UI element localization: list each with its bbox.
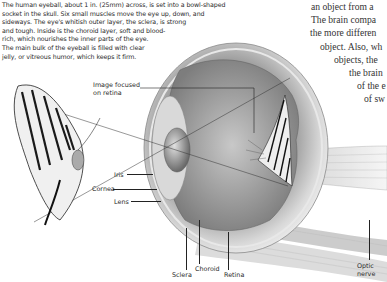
leader-lens xyxy=(131,201,161,202)
intro-line: socket in the skull. Six small muscles m… xyxy=(2,10,227,19)
intro-line: jelly, or vitreous humor, which keeps it… xyxy=(2,53,227,62)
leader-iris xyxy=(127,174,153,175)
leader-retina xyxy=(228,232,229,270)
label-sclera: Sclera xyxy=(172,271,192,279)
intro-line: rich, which nourishes the inner parts of… xyxy=(2,35,227,44)
label-image-focused: Image focused on retina xyxy=(93,81,140,97)
side-text-line: object. Also, wh xyxy=(320,40,382,53)
intro-line: The main bulk of the eyeball is filled w… xyxy=(2,44,227,53)
intro-line: sideways. The eye's whitish outer layer,… xyxy=(2,18,227,27)
lens xyxy=(164,128,190,172)
leader-choroid xyxy=(199,220,200,264)
side-text-line: of the e xyxy=(357,79,386,92)
intro-paragraph: The human eyeball, about 1 in. (25mm) ac… xyxy=(2,1,227,61)
label-line: nerve xyxy=(357,270,375,278)
side-text-line: The brain compa xyxy=(311,13,376,26)
label-retina: Retina xyxy=(224,271,244,279)
side-text-line: the brain xyxy=(349,66,383,79)
leader-optic-nerve xyxy=(369,220,370,260)
label-cornea: Cornea xyxy=(92,185,115,193)
label-line: Image focused xyxy=(93,81,140,89)
label-choroid: Choroid xyxy=(195,265,220,273)
side-text-line: the more differen xyxy=(310,26,376,39)
leader-cornea xyxy=(113,189,157,190)
label-optic-nerve: Optic nerve xyxy=(357,262,375,278)
intro-line: and tough. Inside is the choroid layer, … xyxy=(2,27,227,36)
label-lens: Lens xyxy=(114,198,129,206)
side-text-line: objects, the xyxy=(334,53,378,66)
side-text-line: of sw xyxy=(364,92,385,105)
leader-sclera xyxy=(186,228,187,270)
label-line: Optic xyxy=(357,262,375,270)
label-line: on retina xyxy=(93,89,140,97)
butterfly-object-icon xyxy=(14,85,100,225)
label-iris: Iris xyxy=(114,171,124,179)
side-text-line: an object from a xyxy=(311,0,374,13)
intro-line: The human eyeball, about 1 in. (25mm) ac… xyxy=(2,1,227,10)
